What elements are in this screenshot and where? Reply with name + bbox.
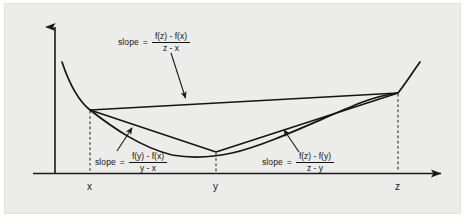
- fraction-denominator-top: z - x: [160, 43, 182, 53]
- slope-annotation-top: slope = f(z) - f(x) z - x: [118, 32, 190, 52]
- convex-curve: [62, 62, 420, 157]
- slope-annotation-bottom-right: slope = f(z) - f(y) z - y: [262, 152, 334, 172]
- slope-label-top: slope: [118, 37, 139, 47]
- chord-x-to-y: [90, 110, 216, 152]
- fraction-bottom-right: f(z) - f(y) z - y: [296, 152, 334, 172]
- fraction-denominator-bottom-right: z - y: [304, 163, 326, 173]
- axis-tick-label-x: x: [87, 182, 92, 192]
- fraction-numerator-bottom-left: f(y) - f(x): [129, 152, 167, 162]
- axis-tick-label-y: y: [213, 182, 218, 192]
- equals-sign-bottom-left: =: [120, 157, 125, 167]
- fraction-denominator-bottom-left: y - x: [137, 163, 159, 173]
- fraction-top: f(z) - f(x) z - x: [152, 32, 190, 52]
- leader-arrow-top: [171, 53, 186, 98]
- slope-label-bottom-right: slope: [262, 157, 283, 167]
- equals-sign-bottom-right: =: [287, 157, 292, 167]
- slope-annotation-bottom-left: slope = f(y) - f(x) y - x: [95, 152, 167, 172]
- slope-label-bottom-left: slope: [95, 157, 116, 167]
- axis-tick-label-z: z: [395, 182, 400, 192]
- fraction-numerator-top: f(z) - f(x): [152, 32, 190, 42]
- fraction-numerator-bottom-right: f(z) - f(y): [296, 152, 334, 162]
- equals-sign-top: =: [143, 37, 148, 47]
- convexity-diagram: slope = f(z) - f(x) z - x slope = f(y) -…: [0, 0, 473, 219]
- leader-arrow-bottom-right: [284, 130, 299, 152]
- fraction-bottom-left: f(y) - f(x) y - x: [129, 152, 167, 172]
- diagram-canvas: [0, 0, 473, 219]
